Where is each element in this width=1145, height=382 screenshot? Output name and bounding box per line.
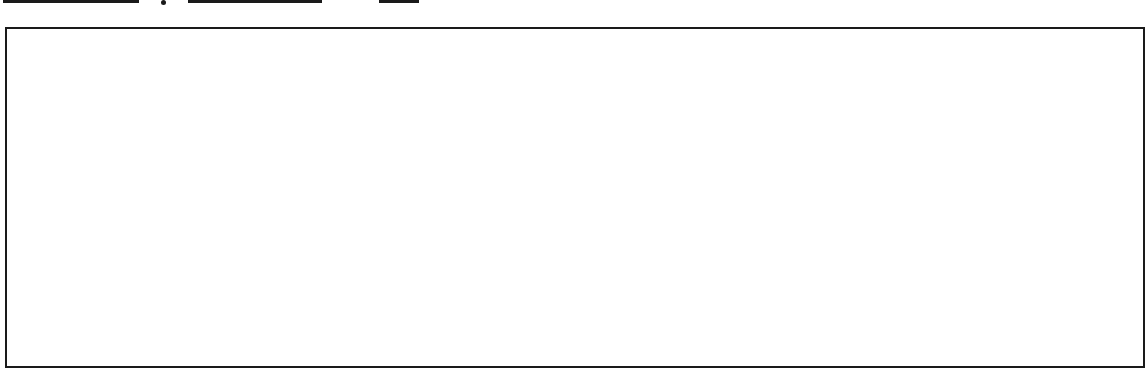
- separator-dot: .: [161, 0, 166, 5]
- blank-field-3[interactable]: [379, 0, 419, 3]
- blank-field-1[interactable]: [3, 0, 139, 3]
- answer-box[interactable]: [5, 27, 1145, 368]
- blank-field-2[interactable]: [188, 0, 322, 3]
